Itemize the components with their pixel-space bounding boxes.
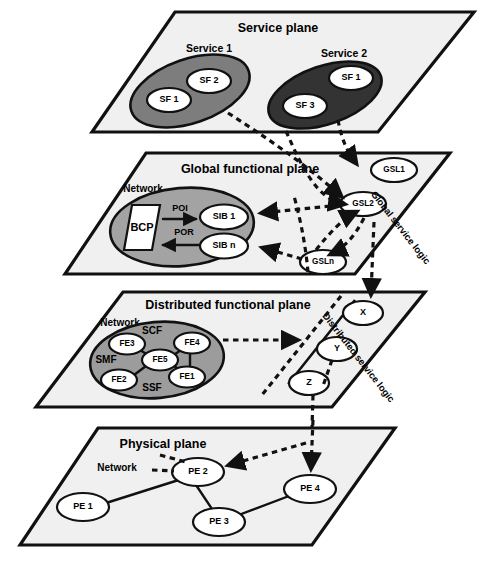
global-functional-plane[interactable]: Global functional plane Network BCP POI … — [65, 153, 450, 274]
poi-label: POI — [172, 203, 188, 213]
smf-region-label: SMF — [95, 354, 116, 365]
fe-node-label: FE5 — [152, 355, 167, 364]
pe-4-node[interactable]: PE 4 — [284, 475, 336, 503]
sf-node-label: SF 2 — [199, 75, 218, 85]
diagram-canvas: Service plane Service 1 SF 1 SF 2 Servic… — [0, 0, 485, 563]
pe-1-node[interactable]: PE 1 — [57, 493, 109, 521]
gsl-node-label: GSL2 — [352, 199, 374, 208]
sib-n-node[interactable]: SIB n — [200, 234, 248, 259]
sib-node-label: SIB 1 — [213, 211, 236, 221]
sf-node-service1-sf2[interactable]: SF 2 — [187, 69, 231, 93]
pe-node-label: PE 4 — [300, 483, 320, 493]
service-plane-title: Service plane — [238, 21, 319, 35]
service-plane[interactable]: Service plane Service 1 SF 1 SF 2 Servic… — [92, 12, 474, 142]
pe-node-label: PE 2 — [188, 466, 208, 476]
fe5-node[interactable]: FE5 — [142, 350, 178, 371]
fe4-node[interactable]: FE4 — [174, 333, 210, 354]
fe1-node[interactable]: FE1 — [169, 367, 205, 388]
sf-node-service2-sf1[interactable]: SF 1 — [329, 66, 373, 90]
fe-node-label: FE4 — [184, 338, 199, 347]
service-1-label: Service 1 — [186, 42, 232, 54]
gsl-node-label: GSL1 — [383, 165, 405, 174]
gsl1-node[interactable]: GSL1 — [371, 158, 417, 182]
global-functional-plane-title: Global functional plane — [181, 162, 319, 176]
gsl-node-label: GSLn — [312, 257, 334, 266]
pe-3-node[interactable]: PE 3 — [193, 508, 245, 536]
distributed-functional-plane-title: Distributed functional plane — [145, 298, 310, 312]
fe-node-label: FE3 — [119, 339, 134, 348]
four-plane-architecture-diagram: Service plane Service 1 SF 1 SF 2 Servic… — [0, 0, 485, 563]
dsl-node-label: Z — [306, 377, 312, 387]
sf-node-label: SF 1 — [159, 94, 178, 104]
fe3-node[interactable]: FE3 — [109, 334, 145, 355]
pe-node-label: PE 1 — [73, 501, 93, 511]
sf-node-service1-sf1[interactable]: SF 1 — [147, 88, 191, 112]
fe2-node[interactable]: FE2 — [101, 370, 137, 391]
physical-plane[interactable]: Physical plane Network PE 2 PE 1 PE 3 PE… — [20, 428, 395, 545]
service-2-label: Service 2 — [321, 47, 367, 59]
pe-2-node[interactable]: PE 2 — [172, 458, 224, 486]
ssf-region-label: SSF — [142, 382, 161, 393]
sib-node-label: SIB n — [212, 240, 235, 250]
fe-node-label: FE1 — [179, 372, 194, 381]
sf-node-label: SF 3 — [295, 100, 314, 110]
fe-node-label: FE2 — [111, 375, 126, 384]
sib-1-node[interactable]: SIB 1 — [200, 205, 248, 230]
sf-node-label: SF 1 — [341, 72, 360, 82]
dsl-x-node[interactable]: X — [343, 301, 383, 325]
distributed-functional-plane[interactable]: Distributed functional plane Network SCF… — [36, 292, 425, 407]
por-label: POR — [174, 227, 194, 237]
bcp-label: BCP — [130, 221, 153, 233]
dsl-node-label: X — [360, 307, 366, 317]
dsl-node-label: Y — [334, 343, 340, 353]
physical-plane-title: Physical plane — [120, 437, 207, 451]
physical-network-label: Network — [97, 462, 137, 473]
scf-region-label: SCF — [142, 325, 162, 336]
pe-node-label: PE 3 — [209, 516, 229, 526]
sf-node-service2-sf3[interactable]: SF 3 — [283, 94, 327, 118]
